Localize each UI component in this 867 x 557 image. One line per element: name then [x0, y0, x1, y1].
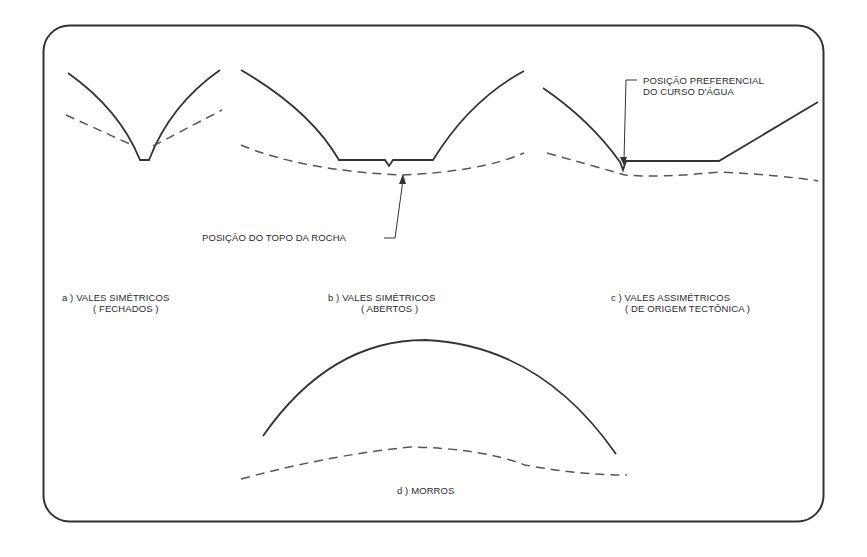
panel-d-profile	[241, 340, 627, 479]
rock-top-leader-line	[384, 180, 403, 238]
panel-d-surface	[263, 340, 616, 454]
panel-a-caption: a ) VALES SIMÉTRICOS ( FECHADOS )	[62, 292, 169, 314]
panel-c-rock-top	[547, 153, 818, 181]
panel-b-caption: b ) VALES SIMÉTRICOS ( ABERTOS )	[328, 292, 435, 314]
stream-leader-line	[624, 80, 637, 160]
panel-a-profile	[66, 70, 222, 160]
stream-position-label: POSIÇÃO PREFERENCIAL DO CURSO D'ÁGUA	[643, 75, 764, 97]
panel-c-subtitle: ( DE ORIGEM TECTÔNICA )	[611, 303, 750, 314]
panel-b-title: b ) VALES SIMÉTRICOS	[328, 292, 435, 303]
panel-a-rock-top	[66, 110, 222, 146]
panel-b-profile	[241, 70, 524, 238]
panel-c-title: c ) VALES ASSIMÉTRICOS	[611, 292, 750, 303]
stream-label-line2: DO CURSO D'ÁGUA	[643, 86, 764, 97]
panel-d-title: d ) MORROS	[397, 485, 454, 496]
stream-label-line1: POSIÇÃO PREFERENCIAL	[643, 75, 764, 86]
panel-d-rock-top	[241, 447, 627, 479]
panel-b-subtitle: ( ABERTOS )	[328, 303, 435, 314]
panel-c-caption: c ) VALES ASSIMÉTRICOS ( DE ORIGEM TECTÔ…	[611, 292, 750, 314]
panel-c-surface	[543, 88, 818, 170]
panel-a-subtitle: ( FECHADOS )	[62, 303, 169, 314]
rock-top-label: POSIÇÃO DO TOPO DA ROCHA	[202, 232, 346, 243]
panel-b-surface	[241, 70, 524, 166]
panel-d-caption: d ) MORROS	[397, 485, 454, 496]
panel-a-title: a ) VALES SIMÉTRICOS	[62, 292, 169, 303]
panel-a-surface	[68, 70, 220, 160]
